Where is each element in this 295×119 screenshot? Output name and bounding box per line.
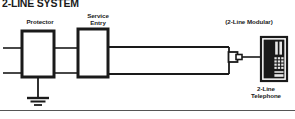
label-service-entry-line1: Service bbox=[87, 12, 109, 19]
figure-2-line-system: 2-LINE SYSTEM bbox=[0, 0, 295, 119]
label-telephone-line2: Telephone bbox=[251, 92, 281, 99]
incoming-line-pair bbox=[3, 48, 23, 73]
protector-box bbox=[22, 31, 54, 77]
label-protector: Protector bbox=[12, 18, 68, 25]
label-telephone-line1: 2-Line bbox=[257, 85, 275, 92]
protector-to-service-lines bbox=[54, 48, 79, 73]
label-service-entry-line2: Entry bbox=[90, 19, 106, 26]
ground-symbol bbox=[27, 77, 49, 105]
cable-run bbox=[108, 47, 229, 74]
label-telephone: 2-LineTelephone bbox=[238, 85, 294, 99]
label-modular-connector: (2-Line Modular) bbox=[204, 18, 294, 25]
modular-connector-icon bbox=[229, 52, 263, 62]
label-service-entry: ServiceEntry bbox=[71, 12, 125, 26]
service-entry-box bbox=[78, 29, 108, 77]
2-line-telephone-icon bbox=[261, 37, 287, 81]
